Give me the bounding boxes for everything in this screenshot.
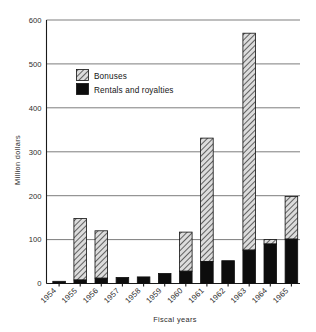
y-tick-label: 100 xyxy=(29,235,42,244)
bar-segment-rentals xyxy=(243,250,256,283)
bar-segment-bonuses xyxy=(95,231,108,278)
y-tick-label: 400 xyxy=(29,104,42,113)
bar-segment-rentals xyxy=(74,280,87,284)
bar-segment-bonuses xyxy=(243,33,256,250)
y-tick-label: 0 xyxy=(37,279,41,288)
bar-segment-rentals xyxy=(53,281,66,283)
legend-label-rentals: Rentals and royalties xyxy=(94,86,174,95)
bar-segment-rentals xyxy=(180,271,193,283)
bar-segment-rentals xyxy=(95,278,108,283)
bar-segment-rentals xyxy=(116,277,129,283)
bar-segment-bonuses xyxy=(180,232,193,271)
legend-swatch-rentals xyxy=(77,84,89,95)
legend-label-bonuses: Bonuses xyxy=(94,72,127,81)
y-tick-label: 300 xyxy=(29,148,42,157)
bar-segment-rentals xyxy=(201,262,214,284)
chart-container: 0100200300400500600 19541955195619571958… xyxy=(0,0,316,332)
bar-segment-rentals xyxy=(264,244,277,284)
bar-segment-bonuses xyxy=(285,197,298,240)
y-axis-title: Million dollars xyxy=(13,135,22,185)
y-tick-label: 600 xyxy=(29,16,42,25)
bar-segment-rentals xyxy=(158,273,171,283)
bar-segment-bonuses xyxy=(264,240,277,244)
bar-segment-rentals xyxy=(222,261,235,284)
y-tick-label: 200 xyxy=(29,192,42,201)
bar-segment-bonuses xyxy=(74,219,87,281)
y-tick-label: 500 xyxy=(29,60,42,69)
stacked-bar-chart: 0100200300400500600 19541955195619571958… xyxy=(0,0,316,332)
bar-segment-rentals xyxy=(285,239,298,283)
bar-segment-bonuses xyxy=(201,138,214,261)
legend-swatch-bonuses xyxy=(77,70,89,81)
x-axis-title: Fiscal years xyxy=(153,315,197,324)
bar-segment-rentals xyxy=(137,277,150,284)
